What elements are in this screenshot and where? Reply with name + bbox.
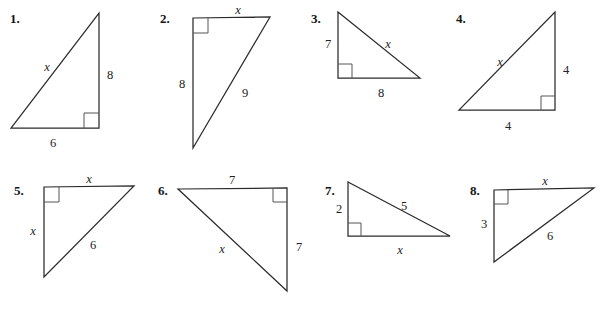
problem-8: 8.x36 [0, 0, 604, 309]
side-label-value: 3 [481, 218, 487, 231]
triangle-figure [0, 0, 604, 309]
triangle-outline [494, 188, 594, 262]
side-label-unknown: x [542, 175, 548, 188]
right-angle-mark-icon [494, 190, 508, 204]
side-label-value: 6 [547, 230, 553, 243]
worksheet-canvas: 1.x862.x893.7x84.x445.xx66.77x7.25x8.x36 [0, 0, 604, 309]
